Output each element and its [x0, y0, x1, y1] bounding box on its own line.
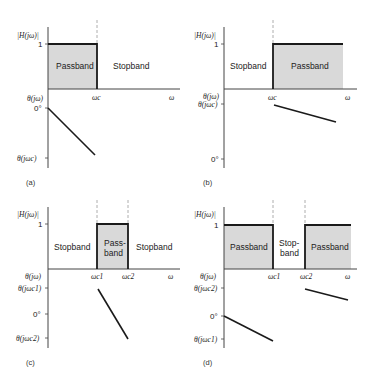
omega-label: ω	[168, 272, 173, 281]
stopband-label-line2: band	[280, 248, 299, 258]
omega-label: ω	[345, 272, 350, 281]
passband-label: Passband	[56, 61, 94, 71]
phase-axis-label: θ(jω)	[27, 94, 44, 103]
level-one-label: 1	[214, 40, 219, 49]
level-one-label: 1	[38, 220, 43, 229]
cutoff-label: ωc	[268, 93, 277, 102]
panel-caption: (b)	[203, 178, 213, 187]
phase-zero-label: 0°	[210, 312, 218, 321]
y-axis-label: |H(jω)|	[17, 31, 39, 40]
stopband-label: Stopband	[230, 61, 267, 71]
phase-cutoff-label: θ(jωc)	[198, 100, 218, 109]
y-axis-label: |H(jω)|	[17, 210, 39, 219]
level-one-label: 1	[38, 40, 43, 49]
panel-caption: (a)	[26, 178, 36, 187]
passband-label-line1: Pass-	[104, 238, 126, 248]
cutoff1-label: ωc1	[268, 272, 280, 281]
cutoff2-label: ωc2	[122, 272, 135, 281]
phase-curve	[48, 108, 95, 155]
phase-curve	[274, 105, 336, 122]
stopband-right-label: Stopband	[136, 242, 173, 252]
phase-axis-label: θ(jω)	[200, 272, 217, 281]
cutoff2-label: ωc2	[300, 272, 313, 281]
panel-b-highpass: |H(jω)| 1 Stopband Passband θ(jω) ωc ω θ…	[194, 20, 357, 187]
phase-zero-label: 0°	[34, 104, 42, 113]
panel-caption: (c)	[26, 358, 35, 367]
phase-curve-right	[305, 289, 348, 300]
phase-cutoff-label: θ(jωc)	[17, 154, 37, 163]
panel-a-lowpass: |H(jω)| 1 Passband Stopband θ(jω) ωc ω 0…	[17, 20, 180, 187]
cutoff1-label: ωc1	[91, 272, 103, 281]
level-one-label: 1	[214, 221, 219, 230]
panel-c-bandpass: |H(jω)| 1 Stopband Pass- band Stopband θ…	[16, 200, 180, 367]
passband-right-label: Passband	[311, 242, 349, 252]
omega-label: ω	[169, 93, 174, 102]
y-axis-label: |H(jω)|	[194, 31, 216, 40]
phase-cutoff1-label: θ(jωc1)	[194, 335, 218, 344]
phase-cutoff2-label: θ(jωc2)	[194, 284, 218, 293]
phase-axis-label: θ(jω)	[25, 272, 42, 281]
phase-cutoff1-label: θ(jωc1)	[18, 284, 42, 293]
passband-label: Passband	[291, 61, 329, 71]
phase-curve	[98, 289, 128, 339]
panel-caption: (d)	[203, 358, 213, 367]
phase-curve-left	[224, 316, 273, 341]
passband-left-label: Passband	[230, 242, 268, 252]
passband-label-line2: band	[104, 248, 123, 258]
phase-zero-label: 0°	[211, 155, 219, 164]
filter-response-diagram: |H(jω)| 1 Passband Stopband θ(jω) ωc ω 0…	[0, 0, 371, 389]
phase-zero-label: 0°	[33, 310, 41, 319]
stopband-left-label: Stopband	[54, 242, 91, 252]
cutoff-label: ωc	[92, 93, 101, 102]
panel-d-bandstop: |H(jω)| 1 Passband Stop- band Passband θ…	[194, 200, 357, 367]
phase-cutoff2-label: θ(jωc2)	[16, 334, 40, 343]
y-axis-label: |H(jω)|	[194, 210, 216, 219]
omega-label: ω	[345, 93, 350, 102]
stopband-label: Stopband	[113, 61, 150, 71]
stopband-label-line1: Stop-	[279, 238, 299, 248]
